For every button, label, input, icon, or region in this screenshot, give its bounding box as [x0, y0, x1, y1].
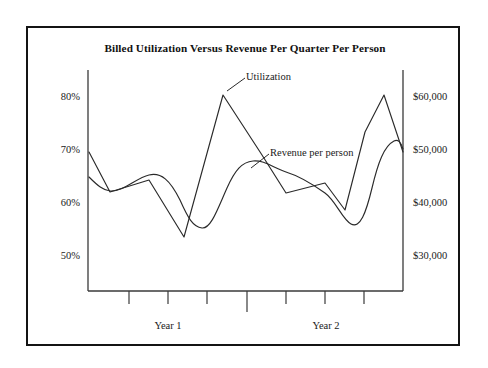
series-annotation-revenue-per-person: Revenue per person	[270, 147, 353, 158]
left-axis-tick-label-60: 60%	[28, 197, 80, 208]
right-axis-tick-label-40000: $40,000	[413, 197, 473, 208]
left-axis-tick-label-80: 80%	[28, 91, 80, 102]
series-line-utilization	[89, 95, 403, 237]
left-axis-tick-label-50: 50%	[28, 250, 80, 261]
x-axis-period-label-year-1: Year 1	[138, 320, 198, 331]
left-axis-tick-label-70: 70%	[28, 144, 80, 155]
right-axis-tick-label-30000: $30,000	[413, 250, 473, 261]
series-annotation-utilization: Utilization	[246, 71, 291, 82]
plot-area	[28, 28, 462, 348]
x-axis-period-label-year-2: Year 2	[296, 320, 356, 331]
right-axis-tick-label-50000: $50,000	[413, 144, 473, 155]
figure-root: Billed Utilization Versus Revenue Per Qu…	[0, 0, 488, 368]
chart-frame: Billed Utilization Versus Revenue Per Qu…	[26, 26, 460, 346]
right-axis-tick-label-60000: $60,000	[413, 91, 473, 102]
utilization-leader-line	[227, 78, 245, 91]
